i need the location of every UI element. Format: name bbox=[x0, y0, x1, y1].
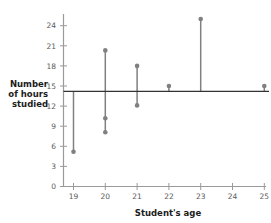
data-point-group bbox=[71, 17, 266, 154]
x-tick-label: 24 bbox=[228, 192, 238, 201]
data-point bbox=[167, 84, 172, 89]
data-point bbox=[103, 130, 108, 135]
y-tick-label: 9 bbox=[51, 122, 56, 131]
y-tick-label: 18 bbox=[46, 62, 56, 71]
chart-canvas: 0 3 6 9 12 15 18 21 24 19 20 21 22 23 24… bbox=[0, 0, 271, 223]
y-axis-title-line: Number bbox=[10, 79, 49, 89]
data-point bbox=[103, 48, 108, 53]
x-tick-group: 19 20 21 22 23 24 25 bbox=[69, 183, 270, 201]
scatter-chart: 0 3 6 9 12 15 18 21 24 19 20 21 22 23 24… bbox=[0, 0, 271, 223]
y-tick-label: 24 bbox=[46, 21, 56, 30]
data-point bbox=[135, 103, 140, 108]
data-point bbox=[262, 84, 267, 89]
data-point bbox=[71, 149, 76, 154]
x-tick-label: 25 bbox=[260, 192, 270, 201]
y-tick-label: 0 bbox=[51, 182, 56, 191]
y-tick-label: 3 bbox=[51, 162, 56, 171]
y-axis-title-line: of hours bbox=[8, 89, 48, 99]
y-tick-label: 6 bbox=[51, 142, 56, 151]
y-axis-title: Number of hours studied bbox=[8, 79, 48, 109]
y-axis-title-line: studied bbox=[12, 99, 48, 109]
data-point bbox=[103, 116, 108, 121]
x-tick-label: 19 bbox=[69, 192, 79, 201]
data-point bbox=[198, 17, 203, 22]
x-tick-label: 21 bbox=[132, 192, 142, 201]
data-point bbox=[135, 64, 140, 69]
x-tick-label: 23 bbox=[196, 192, 206, 201]
x-axis-title: Student's age bbox=[135, 208, 202, 218]
x-tick-label: 20 bbox=[101, 192, 111, 201]
y-tick-label: 21 bbox=[46, 42, 56, 51]
x-tick-label: 22 bbox=[164, 192, 174, 201]
axes-group bbox=[62, 14, 266, 187]
